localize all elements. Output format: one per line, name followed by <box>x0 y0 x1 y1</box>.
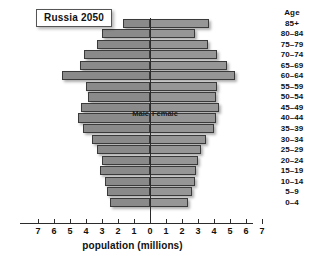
x-tick-4 <box>102 219 103 224</box>
bar-female-50-54 <box>150 92 216 101</box>
bar-male-50-54 <box>88 92 150 101</box>
x-tick-5 <box>118 219 119 224</box>
x-tick-8 <box>166 219 167 224</box>
bar-male-60-64 <box>62 71 150 80</box>
bar-male-10-14 <box>105 177 150 186</box>
bar-male-70-74 <box>84 50 150 59</box>
bar-female-35-39 <box>150 124 214 133</box>
x-tick-1 <box>54 219 55 224</box>
age-label-30-34: 30–34 <box>270 135 314 146</box>
bar-male-5-9 <box>107 187 150 196</box>
age-label-5-9: 5–9 <box>270 187 314 198</box>
x-tick-label-4: 3 <box>94 226 110 236</box>
age-label-10-14: 10–14 <box>270 177 314 188</box>
age-label-70-74: 70–74 <box>270 50 314 61</box>
bar-female-60-64 <box>150 71 235 80</box>
x-tick-9 <box>182 219 183 224</box>
x-axis-title: population (millions) <box>0 240 265 251</box>
x-tick-3 <box>86 219 87 224</box>
age-label-55-59: 55–59 <box>270 82 314 93</box>
x-tick-label-13: 6 <box>238 226 254 236</box>
age-label-50-54: 50–54 <box>270 92 314 103</box>
bar-male-25-29 <box>97 145 150 154</box>
age-label-85plus: 85+ <box>270 19 314 30</box>
bar-female-65-69 <box>150 61 227 70</box>
age-label-35-39: 35–39 <box>270 124 314 135</box>
x-tick-14 <box>262 219 263 224</box>
x-tick-label-9: 2 <box>174 226 190 236</box>
bar-male-80-84 <box>102 29 150 38</box>
x-tick-label-10: 3 <box>190 226 206 236</box>
x-tick-7 <box>150 219 151 224</box>
bar-male-55-59 <box>86 82 150 91</box>
x-tick-label-7: 0 <box>142 226 158 236</box>
x-tick-label-3: 4 <box>78 226 94 236</box>
center-zero-axis <box>150 18 151 223</box>
x-tick-13 <box>246 219 247 224</box>
bar-male-75-79 <box>97 40 150 49</box>
bar-male-0-4 <box>110 198 150 207</box>
x-tick-2 <box>70 219 71 224</box>
female-label: Female <box>152 109 178 118</box>
age-label-15-19: 15–19 <box>270 166 314 177</box>
male-label: Male <box>132 109 149 118</box>
chart-title-box: Russia 2050 <box>36 9 112 27</box>
x-tick-label-1: 6 <box>46 226 62 236</box>
x-tick-label-6: 1 <box>126 226 142 236</box>
bar-male-20-24 <box>102 156 150 165</box>
age-axis-title: Age <box>270 8 314 19</box>
age-label-0-4: 0–4 <box>270 198 314 209</box>
x-tick-0 <box>38 219 39 224</box>
x-tick-6 <box>134 219 135 224</box>
age-label-75-79: 75–79 <box>270 40 314 51</box>
bar-female-55-59 <box>150 82 217 91</box>
x-tick-label-8: 1 <box>158 226 174 236</box>
x-tick-12 <box>230 219 231 224</box>
bar-female-20-24 <box>150 156 198 165</box>
age-label-60-64: 60–64 <box>270 71 314 82</box>
bar-male-35-39 <box>83 124 150 133</box>
x-tick-label-5: 2 <box>110 226 126 236</box>
bar-female-30-34 <box>150 135 206 144</box>
x-tick-label-0: 7 <box>30 226 46 236</box>
bar-male-15-19 <box>100 166 150 175</box>
bar-male-30-34 <box>92 135 150 144</box>
age-label-25-29: 25–29 <box>270 145 314 156</box>
population-pyramid-chart: Russia 2050 Male Female Age 85+80–8475–7… <box>0 0 317 267</box>
bar-female-15-19 <box>150 166 196 175</box>
age-label-65-69: 65–69 <box>270 61 314 72</box>
male-female-legend: Male Female <box>0 109 317 120</box>
bar-female-0-4 <box>150 198 188 207</box>
x-tick-11 <box>214 219 215 224</box>
x-tick-label-11: 4 <box>206 226 222 236</box>
age-label-80-84: 80–84 <box>270 29 314 40</box>
bar-female-85plus <box>150 19 209 28</box>
x-tick-label-14: 7 <box>254 226 270 236</box>
bar-female-80-84 <box>150 29 195 38</box>
bar-female-25-29 <box>150 145 201 154</box>
age-label-20-24: 20–24 <box>270 156 314 167</box>
bar-female-75-79 <box>150 40 208 49</box>
bar-female-5-9 <box>150 187 192 196</box>
bar-female-70-74 <box>150 50 217 59</box>
x-tick-label-2: 5 <box>62 226 78 236</box>
x-tick-10 <box>198 219 199 224</box>
bar-female-10-14 <box>150 177 195 186</box>
bar-male-85plus <box>123 19 150 28</box>
bar-male-65-69 <box>80 61 150 70</box>
x-tick-label-12: 5 <box>222 226 238 236</box>
